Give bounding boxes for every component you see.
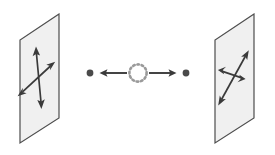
right-emission-arrow — [149, 69, 177, 77]
dotted-source-circle — [129, 64, 146, 81]
right-polarization-plane-group — [215, 14, 254, 143]
left-detector-dot — [87, 70, 94, 77]
center-emission-group — [87, 64, 190, 81]
polarization-diagram — [0, 0, 275, 155]
right-detector-dot — [183, 70, 190, 77]
diagram-canvas — [0, 0, 275, 155]
left-polarization-plane-group — [18, 14, 59, 143]
right-plane-face — [215, 14, 254, 143]
left-emission-arrow — [100, 69, 128, 77]
